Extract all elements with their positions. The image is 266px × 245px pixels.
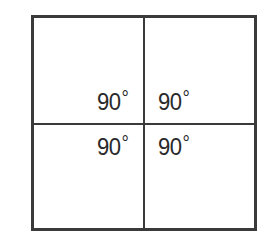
degree-symbol: ° [122,132,129,154]
angle-label-bottom-left: 90° [97,135,128,159]
degree-symbol: ° [183,87,190,109]
angle-label-top-left: 90° [97,90,128,114]
angle-value: 90 [158,133,182,160]
angle-value: 90 [97,88,121,115]
degree-symbol: ° [122,87,129,109]
angle-label-bottom-right: 90° [158,135,189,159]
angle-value: 90 [158,88,182,115]
horizontal-divider-line [31,123,257,125]
angle-label-top-right: 90° [158,90,189,114]
angle-value: 90 [97,133,121,160]
degree-symbol: ° [183,132,190,154]
